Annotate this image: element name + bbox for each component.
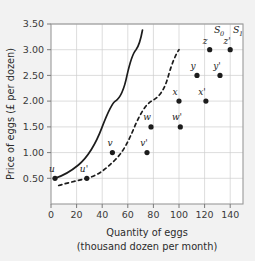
- point-label-y: y: [189, 61, 196, 71]
- x-axis-subtitle: (thousand dozen per month): [77, 241, 217, 252]
- x-tick-label: 60: [122, 209, 134, 220]
- data-point-x-prime: [203, 99, 208, 104]
- data-point-w-prime: [178, 124, 183, 129]
- y-tick-label: 3.50: [23, 18, 44, 29]
- data-point-v: [110, 150, 115, 155]
- data-point-x: [176, 99, 181, 104]
- data-point-u-prime: [84, 176, 89, 181]
- x-tick-label: 120: [196, 209, 214, 220]
- point-label-w: w: [143, 112, 151, 122]
- supply-curve-figure: 0.50 1.00 1.50 2.00 2.50 3.00 3.50 0 20 …: [0, 0, 255, 261]
- point-label-u-prime: u': [80, 164, 88, 174]
- point-label-u: u: [49, 164, 55, 174]
- point-label-v-prime: v': [140, 138, 148, 148]
- y-axis-title: Price of eggs (£ per dozen): [5, 48, 16, 180]
- data-point-z-prime: [228, 47, 233, 52]
- data-point-z: [207, 47, 212, 52]
- y-tick-label: 1.00: [23, 147, 44, 158]
- x-tick-label: 140: [221, 209, 239, 220]
- point-label-v: v: [107, 138, 112, 148]
- data-point-y: [194, 73, 199, 78]
- x-tick-label: 40: [96, 209, 108, 220]
- x-tick-label: 20: [71, 209, 83, 220]
- y-tick-label: 2.00: [23, 95, 44, 106]
- point-label-x: x: [172, 87, 177, 97]
- point-label-z: z: [202, 36, 208, 46]
- y-tick-label: 2.50: [23, 70, 44, 81]
- data-point-v-prime: [144, 150, 149, 155]
- x-tick-label: 100: [170, 209, 188, 220]
- y-tick-label: 1.50: [23, 121, 44, 132]
- point-label-y-prime: y': [212, 61, 221, 71]
- x-tick-label: 80: [147, 209, 159, 220]
- y-tick-label: 3.00: [23, 44, 44, 55]
- curve-label-s1-subscript: 1: [239, 30, 243, 38]
- data-point-w: [148, 124, 153, 129]
- chart-canvas: 0.50 1.00 1.50 2.00 2.50 3.00 3.50 0 20 …: [0, 0, 255, 261]
- curve-label-s0-subscript: 0: [220, 30, 224, 38]
- x-axis-title: Quantity of eggs: [106, 227, 188, 238]
- data-point-u: [52, 176, 57, 181]
- point-label-x-prime: x': [198, 87, 206, 97]
- data-point-y-prime: [217, 73, 222, 78]
- point-label-w-prime: w': [172, 112, 182, 122]
- y-tick-label: 0.50: [23, 173, 44, 184]
- x-tick-label: 0: [48, 209, 54, 220]
